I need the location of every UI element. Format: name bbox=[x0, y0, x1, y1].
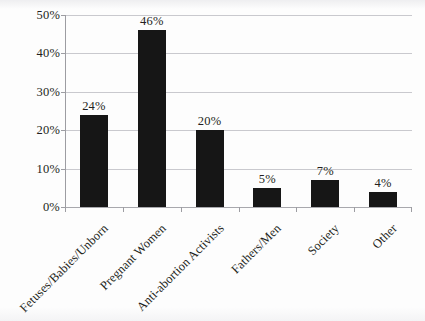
bar-value-label: 20% bbox=[198, 115, 222, 128]
plot-area: 24%46%20%5%7%4% bbox=[65, 15, 412, 207]
bar bbox=[369, 192, 397, 207]
bar bbox=[138, 30, 166, 207]
x-axis-tick bbox=[354, 207, 355, 212]
bar-value-label: 24% bbox=[82, 100, 106, 113]
x-axis-ticks bbox=[65, 207, 412, 213]
gridline-40 bbox=[65, 53, 412, 54]
x-axis-category-label: Society bbox=[306, 222, 342, 258]
x-axis-category-label: Pregnant Women bbox=[98, 222, 169, 293]
y-tick-20 bbox=[61, 130, 66, 131]
bar-value-label: 5% bbox=[259, 173, 276, 186]
gridline-30 bbox=[65, 92, 412, 93]
bar-value-label: 4% bbox=[375, 177, 392, 190]
y-axis-tick-label-10: 10% bbox=[18, 162, 60, 175]
bar bbox=[311, 180, 339, 207]
x-axis-tick bbox=[411, 207, 412, 212]
bar bbox=[253, 188, 281, 207]
y-tick-40 bbox=[61, 53, 66, 54]
bar-value-label: 7% bbox=[317, 165, 334, 178]
y-axis-tick-label-30: 30% bbox=[18, 86, 60, 99]
y-tick-30 bbox=[61, 92, 66, 93]
y-axis-tick-labels: 0% 10% 20% 30% 40% 50% bbox=[12, 15, 60, 207]
y-axis-tick-label-40: 40% bbox=[18, 47, 60, 60]
y-tick-10 bbox=[61, 169, 66, 170]
x-axis-tick bbox=[239, 207, 240, 212]
x-axis-category-label: Anti-abortion Activists bbox=[134, 222, 226, 314]
x-axis-category-label: Fathers/Men bbox=[230, 222, 284, 276]
y-axis-tick-label-20: 20% bbox=[18, 124, 60, 137]
y-axis-tick-label-0: 0% bbox=[18, 201, 60, 214]
bar-value-label: 46% bbox=[140, 15, 164, 28]
bar bbox=[80, 115, 108, 207]
x-axis-tick bbox=[296, 207, 297, 212]
bar bbox=[196, 130, 224, 207]
x-axis-category-label: Fetuses/Babies/Unborn bbox=[18, 222, 111, 315]
y-tick-50 bbox=[61, 15, 66, 16]
bar-chart: 0% 10% 20% 30% 40% 50% 24%46%20%5%7%4% F… bbox=[0, 0, 425, 321]
x-axis-tick bbox=[123, 207, 124, 212]
x-axis-tick bbox=[181, 207, 182, 212]
gridline-50 bbox=[65, 15, 412, 16]
gridline-20 bbox=[65, 130, 412, 131]
gridline-10 bbox=[65, 169, 412, 170]
y-axis-tick-label-50: 50% bbox=[18, 9, 60, 22]
x-axis-category-label: Other bbox=[370, 222, 399, 251]
x-axis-tick bbox=[65, 207, 66, 212]
